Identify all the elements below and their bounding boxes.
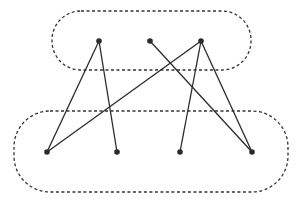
vertex-b1: [44, 149, 50, 155]
edge-t3-b4: [201, 41, 252, 152]
edge-t1-b2: [99, 41, 117, 152]
group-bottom-boundary: [14, 111, 288, 192]
vertex-b4: [249, 149, 255, 155]
vertex-t1: [96, 38, 102, 44]
vertex-t3: [198, 38, 204, 44]
bipartite-graph-diagram: [0, 0, 298, 199]
vertex-b3: [177, 149, 183, 155]
edge-t1-b1: [47, 41, 99, 152]
edges: [47, 41, 252, 152]
edge-t3-b3: [180, 41, 201, 152]
vertex-b2: [114, 149, 120, 155]
edge-t2-b4: [150, 41, 252, 152]
edge-t3-b1: [47, 41, 201, 152]
vertex-groups: [14, 11, 288, 192]
vertex-t2: [147, 38, 153, 44]
vertices: [44, 38, 255, 155]
